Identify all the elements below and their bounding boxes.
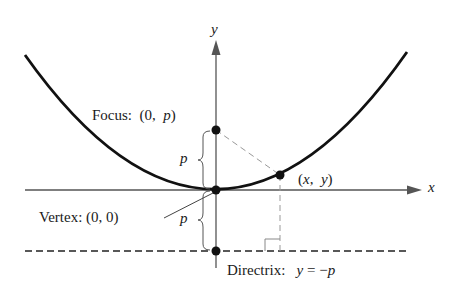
y-axis-arrow-icon xyxy=(212,40,221,55)
directrix-eq-rest: = − xyxy=(307,262,328,278)
directrix-eq-y: y xyxy=(297,262,304,278)
x-axis-label: x xyxy=(428,180,435,195)
point-y: y xyxy=(321,171,328,187)
vertex-label: Vertex: (0, 0) xyxy=(39,210,119,225)
p-upper-label: p xyxy=(180,151,188,166)
directrix-label: Directrix: y = −p xyxy=(227,263,335,278)
parabola-diagram: y x Focus: (0, p) p p Vertex: (0, 0) (x,… xyxy=(0,0,457,294)
directrix-point xyxy=(212,247,221,256)
point-label: (x, y) xyxy=(298,172,333,187)
focus-to-point-dashed-line xyxy=(216,130,280,175)
point-close: ) xyxy=(328,171,333,187)
directrix-prefix: Directrix: xyxy=(227,262,285,278)
focus-coords-p: p xyxy=(163,107,171,123)
focus-label: Focus: (0, p) xyxy=(92,108,176,123)
brace-upper xyxy=(198,131,210,189)
focus-prefix: Focus: xyxy=(92,107,132,123)
point-x: x xyxy=(303,171,310,187)
right-angle-mark xyxy=(265,239,280,251)
focus-coords-close: ) xyxy=(171,107,176,123)
vertex-point xyxy=(212,186,221,195)
p-lower-label: p xyxy=(180,211,188,226)
y-axis-label: y xyxy=(211,22,218,37)
point-comma: , xyxy=(310,171,314,187)
focus-coords-open: (0, xyxy=(140,107,156,123)
vertex-leader-line xyxy=(164,193,213,218)
curve-point xyxy=(276,171,285,180)
parabola-svg xyxy=(0,0,457,294)
focus-point xyxy=(212,126,221,135)
directrix-eq-p: p xyxy=(328,262,336,278)
x-axis-arrow-icon xyxy=(407,186,422,195)
